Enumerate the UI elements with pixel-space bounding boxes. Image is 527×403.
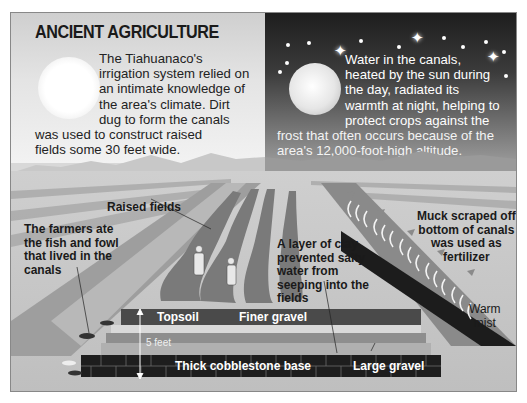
night-text-line: the day, radiated its <box>345 82 515 97</box>
label-cobblestone: Thick cobblestone base <box>175 360 311 373</box>
day-text-line: was used to construct raised <box>35 127 265 142</box>
infographic-title: ANCIENT AGRICULTURE <box>35 21 219 43</box>
label-line: Muck scraped off <box>417 210 516 224</box>
night-text-line: heated by the sun during <box>345 67 515 82</box>
label-line: bottom of canals <box>417 224 516 238</box>
finer-gravel-layer <box>111 325 421 333</box>
star-icon <box>359 39 363 43</box>
star-icon <box>285 61 289 65</box>
label-line: mist <box>469 317 501 331</box>
day-text-line: the area's climate. Dirt <box>99 97 269 112</box>
label-line: that lived in the <box>24 250 119 264</box>
label-line: was used as <box>417 237 516 251</box>
day-panel: ANCIENT AGRICULTURE The Tiahuanaco's irr… <box>11 13 265 163</box>
night-text-line: warmth at night, helping to <box>345 98 515 113</box>
night-text-line: protect crops against the <box>345 113 515 128</box>
label-line: The farmers ate <box>24 223 119 237</box>
label-line: prevented salty <box>277 252 369 266</box>
star-icon <box>286 43 290 47</box>
star-icon <box>442 36 446 40</box>
label-line: Warm <box>469 303 501 317</box>
night-text-line: Water in the canals, <box>345 52 515 67</box>
label-clay-layer: A layer of clay prevented salty water fr… <box>277 238 369 306</box>
label-muck: Muck scraped off bottom of canals was us… <box>417 210 516 264</box>
field-cross-section: Raised fields The farmers ate the fish a… <box>11 171 516 391</box>
infographic-frame: ANCIENT AGRICULTURE The Tiahuanaco's irr… <box>10 12 517 392</box>
star-icon <box>461 45 465 49</box>
label-five-feet: 5 feet <box>146 336 171 349</box>
moon-icon <box>289 63 341 115</box>
label-farmers: The farmers ate the fish and fowl that l… <box>24 223 119 277</box>
label-topsoil: Topsoil <box>157 311 199 324</box>
star-icon <box>397 45 401 49</box>
star-icon <box>484 40 488 44</box>
sparkle-star-icon: ✦ <box>411 30 424 45</box>
day-text-line: The Tiahuanaco's <box>99 51 269 66</box>
day-text-line: dug to form the canals <box>99 112 269 127</box>
star-icon <box>278 70 282 74</box>
cross-section-illustration <box>11 171 516 391</box>
day-text: The Tiahuanaco's irrigation system relie… <box>99 51 269 127</box>
label-line: water from <box>277 265 369 279</box>
day-text-line: irrigation system relied on <box>99 66 269 81</box>
night-text: Water in the canals, heated by the sun d… <box>345 52 515 128</box>
label-large-gravel: Large gravel <box>353 360 424 373</box>
label-line: fields <box>277 292 369 306</box>
day-text-line: an intimate knowledge of <box>99 81 269 96</box>
label-raised-fields: Raised fields <box>107 201 181 215</box>
night-panel: ✦ ✦ ✦ Water in the canals, heated by the… <box>265 13 516 163</box>
label-line: seeping into the <box>277 279 369 293</box>
star-icon <box>307 41 311 45</box>
label-line: fertilizer <box>417 251 516 265</box>
label-finer-gravel: Finer gravel <box>239 311 307 324</box>
label-line: the fish and fowl <box>24 237 119 251</box>
label-line: A layer of clay <box>277 238 369 252</box>
label-warm-mist: Warm mist <box>469 303 501 330</box>
night-text-line: frost that often occurs because of the <box>277 128 517 143</box>
sun-icon <box>38 57 100 119</box>
label-line: canals <box>24 264 119 278</box>
